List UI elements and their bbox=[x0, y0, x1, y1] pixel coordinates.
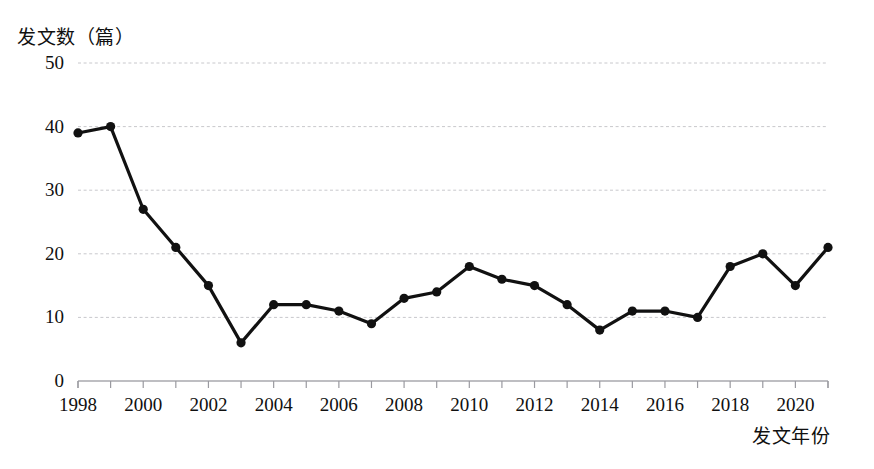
x-axis-tick-label: 2008 bbox=[369, 394, 439, 416]
data-point bbox=[563, 300, 572, 309]
x-axis-tick-label: 2010 bbox=[434, 394, 504, 416]
data-point bbox=[823, 243, 832, 252]
y-axis-tick-label: 50 bbox=[16, 52, 64, 74]
data-point bbox=[399, 294, 408, 303]
data-point bbox=[465, 262, 474, 271]
publication-count-line-chart: 发文数（篇） 01020304050 199820002002200420062… bbox=[0, 0, 874, 469]
x-axis-tick-label: 2020 bbox=[760, 394, 830, 416]
y-axis-tick-label: 10 bbox=[16, 306, 64, 328]
data-points bbox=[73, 122, 832, 347]
x-axis-tick-label: 2004 bbox=[239, 394, 309, 416]
x-axis-tick-label: 2016 bbox=[630, 394, 700, 416]
x-axis-title: 发文年份 bbox=[752, 421, 830, 448]
x-axis-tick-label: 2006 bbox=[304, 394, 374, 416]
data-point bbox=[595, 326, 604, 335]
data-point bbox=[660, 306, 669, 315]
x-axis-tick-label: 2000 bbox=[108, 394, 178, 416]
y-axis-tick-label: 40 bbox=[16, 116, 64, 138]
data-point bbox=[139, 205, 148, 214]
y-axis-tick-label: 30 bbox=[16, 179, 64, 201]
data-point bbox=[204, 281, 213, 290]
data-point bbox=[236, 338, 245, 347]
x-axis-tick-label: 1998 bbox=[43, 394, 113, 416]
data-point bbox=[302, 300, 311, 309]
x-axis-ticks bbox=[78, 381, 828, 388]
data-point bbox=[693, 313, 702, 322]
data-point bbox=[73, 128, 82, 137]
data-point bbox=[791, 281, 800, 290]
data-point bbox=[171, 243, 180, 252]
data-point bbox=[628, 306, 637, 315]
x-axis-tick-label: 2002 bbox=[173, 394, 243, 416]
gridlines bbox=[78, 63, 828, 381]
x-axis-tick-label: 2014 bbox=[565, 394, 635, 416]
data-point bbox=[432, 287, 441, 296]
data-point bbox=[497, 275, 506, 284]
data-point bbox=[758, 249, 767, 258]
data-point bbox=[530, 281, 539, 290]
x-axis-tick-label: 2018 bbox=[695, 394, 765, 416]
data-point bbox=[106, 122, 115, 131]
data-line bbox=[78, 127, 828, 343]
data-point bbox=[367, 319, 376, 328]
x-axis-tick-label: 2012 bbox=[500, 394, 570, 416]
data-point bbox=[269, 300, 278, 309]
data-point bbox=[334, 306, 343, 315]
y-axis-tick-label: 0 bbox=[16, 370, 64, 392]
y-axis-tick-label: 20 bbox=[16, 243, 64, 265]
data-point bbox=[726, 262, 735, 271]
